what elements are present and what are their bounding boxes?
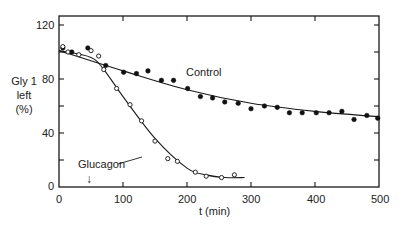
glucagon-data-point: [102, 67, 106, 71]
control-data-point: [185, 86, 190, 91]
control-data-point: [236, 101, 241, 106]
glucagon-data-point: [219, 175, 223, 179]
control-data-point: [198, 94, 203, 99]
glucagon-data-point: [128, 103, 132, 107]
y-tick-label-120: 120: [36, 19, 54, 31]
control-data-point: [159, 78, 164, 83]
x-tick-label-200: 200: [178, 193, 196, 205]
x-axis-title: t (min): [199, 205, 230, 217]
control-data-point: [314, 110, 319, 115]
x-tick-label-0: 0: [56, 193, 62, 205]
control-data-point: [327, 110, 332, 115]
control-data-point: [275, 105, 280, 110]
control-series-label: Control: [186, 66, 221, 78]
control-data-point: [352, 117, 357, 122]
x-tick-label-100: 100: [114, 193, 132, 205]
down-arrow-icon: ↓: [86, 172, 92, 186]
control-data-point: [287, 110, 292, 115]
control-data-point: [375, 116, 380, 121]
glucagon-data-point: [193, 170, 197, 174]
control-data-point: [340, 109, 345, 114]
control-data-point: [171, 78, 176, 83]
control-data-point: [300, 110, 305, 115]
glucagon-data-point: [204, 174, 208, 178]
control-data-point: [146, 69, 151, 74]
control-data-point: [222, 100, 227, 105]
glucagon-data-point: [175, 159, 179, 163]
y-axis-title: Gly 1 left (%): [4, 74, 44, 116]
control-data-point: [249, 106, 254, 111]
glucagon-data-point: [166, 157, 170, 161]
glucagon-data-point: [153, 139, 157, 143]
control-data-point: [365, 113, 370, 118]
y-tick-label-40: 40: [42, 127, 54, 139]
control-data-point: [134, 71, 139, 76]
y-tick-label-80: 80: [42, 73, 54, 85]
x-tick-label-500: 500: [371, 193, 389, 205]
control-data-point: [262, 104, 267, 109]
glucagon-data-point: [115, 86, 119, 90]
glucagon-data-point: [97, 54, 101, 58]
glucagon-series-label: Glucagon: [78, 158, 125, 170]
glucagon-data-point: [66, 50, 70, 54]
control-data-point: [121, 70, 126, 75]
control-fit-curve: [59, 51, 379, 117]
y-axis-title-line1: Gly 1: [4, 74, 44, 88]
x-tick-label-400: 400: [307, 193, 325, 205]
x-tick-label-300: 300: [242, 193, 260, 205]
glucagon-data-point: [232, 173, 236, 177]
y-tick-label-0: 0: [48, 180, 54, 192]
glucagon-data-point: [61, 45, 65, 49]
glucagon-data-point: [89, 49, 93, 53]
glucagon-data-point: [139, 119, 143, 123]
y-axis-title-line2: left: [4, 88, 44, 102]
y-axis-title-line3: (%): [4, 102, 44, 116]
control-data-point: [210, 96, 215, 101]
glucagon-data-point: [77, 53, 81, 57]
